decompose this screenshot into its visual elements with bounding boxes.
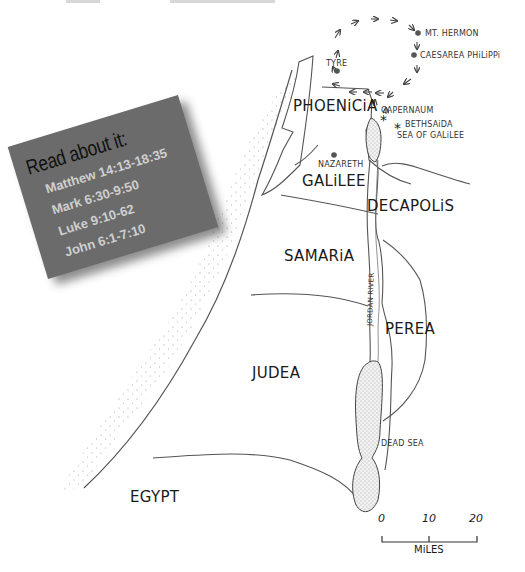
label-galilee: GALiLEE <box>302 172 366 190</box>
scale-tick-0: 0 <box>378 512 385 525</box>
scale-unit: MiLES <box>414 544 444 555</box>
label-judea: JUDEA <box>251 364 301 382</box>
scale-bar: 0 10 20 MiLES <box>378 512 483 555</box>
label-egypt: EGYPT <box>130 488 180 506</box>
scale-tick-10: 10 <box>422 512 436 525</box>
galilee-samaria-border <box>281 195 378 214</box>
label-perea: PEREA <box>385 320 436 338</box>
label-tyre: TYRE <box>325 59 347 68</box>
label-caesarea-philippi: CAESAREA PHiLiPPi <box>420 51 500 60</box>
label-phoenicia: PHOENiCiA <box>293 97 378 115</box>
label-samaria: SAMARiA <box>284 247 355 265</box>
label-capernaum: CAPERNAUM <box>381 106 434 115</box>
label-dead-sea: DEAD SEA <box>381 439 424 448</box>
nazareth-marker <box>331 152 337 158</box>
mt-hermon-marker <box>415 30 421 36</box>
judea-egypt-border <box>153 454 358 500</box>
scale-tick-20: 20 <box>469 512 483 525</box>
label-jordan-river: JORDAN RiVER <box>366 273 376 327</box>
label-bethsaida: BETHSAiDA <box>405 120 453 129</box>
map: * * PHOENiCiA GALiLEE DECAPOLiS SAMARiA … <box>0 0 525 572</box>
tyre-marker <box>334 68 340 74</box>
dead-sea <box>353 361 383 512</box>
samaria-judea-border <box>251 294 368 306</box>
jordan-river <box>367 160 370 362</box>
label-decapolis: DECAPOLiS <box>367 197 454 215</box>
label-nazareth: NAZARETH <box>318 160 364 169</box>
decapolis-boundary <box>382 163 470 184</box>
label-sea-of-galilee: SEA OF GALiLEE <box>397 131 464 140</box>
caesarea-philippi-marker <box>411 52 417 58</box>
label-mt-hermon: MT. HERMON <box>425 29 479 38</box>
